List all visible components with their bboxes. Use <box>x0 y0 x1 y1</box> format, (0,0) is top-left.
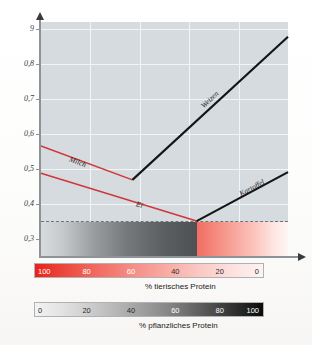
y-axis-tick-mark <box>36 99 40 100</box>
y-axis-arrow-icon <box>36 12 44 20</box>
y-axis-tick-label: 0,4 <box>8 199 34 208</box>
plot-area <box>41 22 288 256</box>
colorbar-tick-label: 20 <box>82 306 90 315</box>
colorbar-tick-label: 20 <box>216 267 224 276</box>
colorbar-tick-label: 60 <box>171 306 179 315</box>
colorbar-tick-label: 80 <box>82 267 90 276</box>
figure-container: 90,80,70,60,50,40,3 MilchWeizenEiKartoff… <box>0 0 312 345</box>
y-axis-tick-mark <box>36 239 40 240</box>
y-axis-tick-label: 0,6 <box>8 129 34 138</box>
colorbar-tick-label: 100 <box>38 267 51 276</box>
y-axis-tick-mark <box>36 204 40 205</box>
series-line-weizen <box>132 37 288 180</box>
y-axis-tick-label: 0,7 <box>8 94 34 103</box>
colorbar-tick-label: 0 <box>38 306 42 315</box>
y-axis-tick-label: 0,5 <box>8 164 34 173</box>
y-axis-tick-mark <box>36 29 40 30</box>
colorbar-plant-protein-caption: % pflanzliches Protein <box>139 321 218 330</box>
colorbar-tick-label: 40 <box>171 267 179 276</box>
colorbar-tick-label: 40 <box>127 306 135 315</box>
y-axis-tick-label: 9 <box>8 24 34 33</box>
y-axis <box>39 18 41 258</box>
colorbar-tick-label: 80 <box>216 306 224 315</box>
x-axis-arrow-icon <box>298 253 306 261</box>
colorbar-animal-protein-caption: % tierisches Protein <box>145 282 216 291</box>
colorbar-animal-protein: 100806040200 <box>34 263 264 278</box>
y-axis-tick-mark <box>36 169 40 170</box>
colorbar-plant-protein: 020406080100 <box>34 302 264 317</box>
y-axis-tick-label: 0,3 <box>8 234 34 243</box>
colorbar-tick-label: 100 <box>246 306 259 315</box>
y-axis-tick-mark <box>36 64 40 65</box>
series-lines <box>41 22 288 256</box>
y-axis-tick-label: 0,8 <box>8 59 34 68</box>
colorbar-tick-label: 0 <box>255 267 259 276</box>
x-axis <box>39 256 300 258</box>
colorbar-tick-label: 60 <box>127 267 135 276</box>
y-axis-tick-mark <box>36 134 40 135</box>
series-line-ei <box>41 173 197 221</box>
